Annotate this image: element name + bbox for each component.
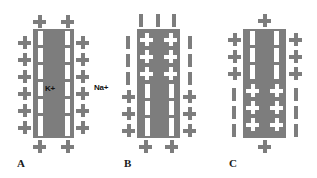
- charge-plus-left-a: [18, 70, 31, 83]
- channel-dash: [169, 101, 174, 115]
- channel-dash: [65, 65, 70, 79]
- charge-plus-left-c: [228, 50, 241, 63]
- channel-dash: [274, 48, 279, 62]
- charge-plus-inner-left-b: [140, 67, 153, 80]
- channel-dash: [65, 99, 70, 113]
- charge-plus-top-c: [258, 14, 271, 27]
- channel-dash: [38, 65, 43, 79]
- charge-plus-top-a: [61, 15, 74, 28]
- charge-plus-right-a: [76, 104, 89, 117]
- charge-plus-left-c: [228, 33, 241, 46]
- charge-dash-top-b: [172, 14, 176, 27]
- channel-dash: [65, 31, 70, 45]
- panel-a: K+ A: [0, 0, 106, 178]
- charge-plus-inner-right-c: [270, 118, 283, 131]
- channel-dash: [274, 65, 279, 79]
- channel-dash: [145, 84, 150, 98]
- charge-plus-right-a: [76, 36, 89, 49]
- charge-plus-bottom-a: [33, 140, 46, 153]
- charge-dash-right-b: [188, 72, 192, 85]
- charge-plus-left-a: [18, 36, 31, 49]
- channel-dash: [38, 31, 43, 45]
- channel-dash: [250, 48, 255, 62]
- charge-dash-left-c: [232, 124, 236, 137]
- panel-b: B: [106, 0, 212, 178]
- charge-plus-inner-left-c: [246, 101, 259, 114]
- label-potassium: K+: [45, 84, 55, 93]
- charge-plus-inner-right-b: [164, 50, 177, 63]
- charge-plus-right-c: [289, 50, 302, 63]
- charge-plus-left-b: [122, 90, 135, 103]
- channel-dash: [145, 118, 150, 136]
- charge-plus-inner-right-b: [164, 33, 177, 46]
- channel-dash: [145, 101, 150, 115]
- charge-plus-top-a: [33, 15, 46, 28]
- charge-dash-left-b: [126, 54, 130, 67]
- channel-dash: [274, 31, 279, 45]
- charge-plus-left-a: [18, 53, 31, 66]
- charge-plus-inner-left-b: [140, 33, 153, 46]
- charge-plus-bottom-b: [139, 140, 152, 153]
- channel-dash: [38, 99, 43, 113]
- charge-dash-left-c: [232, 106, 236, 119]
- charge-dash-left-b: [126, 36, 130, 49]
- channel-dash: [65, 82, 70, 96]
- charge-dash-left-b: [126, 72, 130, 85]
- charge-plus-inner-left-c: [246, 118, 259, 131]
- charge-plus-inner-right-c: [270, 84, 283, 97]
- channel-dash: [169, 84, 174, 98]
- channel-dash: [250, 65, 255, 79]
- charge-dash-left-c: [232, 88, 236, 101]
- channel-dash: [38, 48, 43, 62]
- charge-plus-right-a: [76, 121, 89, 134]
- panel-letter-a: A: [17, 157, 25, 169]
- charge-plus-bottom-a: [61, 140, 74, 153]
- channel-dash: [250, 31, 255, 45]
- charge-dash-top-b: [139, 14, 143, 27]
- panel-letter-b: B: [124, 157, 131, 169]
- charge-dash-top-b: [156, 14, 160, 27]
- charge-plus-right-a: [76, 87, 89, 100]
- charge-plus-inner-right-b: [164, 67, 177, 80]
- panel-c: C: [211, 0, 317, 178]
- charge-dash-right-c: [294, 106, 298, 119]
- channel-dash: [65, 116, 70, 136]
- charge-plus-right-a: [76, 53, 89, 66]
- channel-dash: [38, 116, 43, 136]
- charge-plus-left-a: [18, 104, 31, 117]
- charge-plus-right-c: [289, 33, 302, 46]
- charge-plus-right-a: [76, 70, 89, 83]
- membrane-potential-figure: K+ A Na+: [0, 0, 317, 178]
- charge-plus-left-b: [122, 107, 135, 120]
- charge-dash-right-c: [294, 124, 298, 137]
- charge-plus-right-b: [183, 90, 196, 103]
- charge-plus-left-a: [18, 87, 31, 100]
- channel-dash: [38, 82, 43, 96]
- charge-plus-inner-left-b: [140, 50, 153, 63]
- charge-dash-right-c: [294, 88, 298, 101]
- channel-dash: [65, 48, 70, 62]
- charge-plus-inner-right-c: [270, 101, 283, 114]
- charge-plus-left-b: [122, 124, 135, 137]
- charge-dash-right-b: [188, 36, 192, 49]
- charge-plus-right-c: [289, 67, 302, 80]
- panel-letter-c: C: [229, 157, 237, 169]
- charge-plus-bottom-b: [165, 140, 178, 153]
- charge-plus-right-b: [183, 107, 196, 120]
- charge-plus-bottom-c: [258, 140, 271, 153]
- charge-dash-right-b: [188, 54, 192, 67]
- channel-dash: [169, 118, 174, 136]
- charge-plus-left-a: [18, 121, 31, 134]
- charge-plus-right-b: [183, 124, 196, 137]
- charge-plus-inner-left-c: [246, 84, 259, 97]
- charge-plus-left-c: [228, 67, 241, 80]
